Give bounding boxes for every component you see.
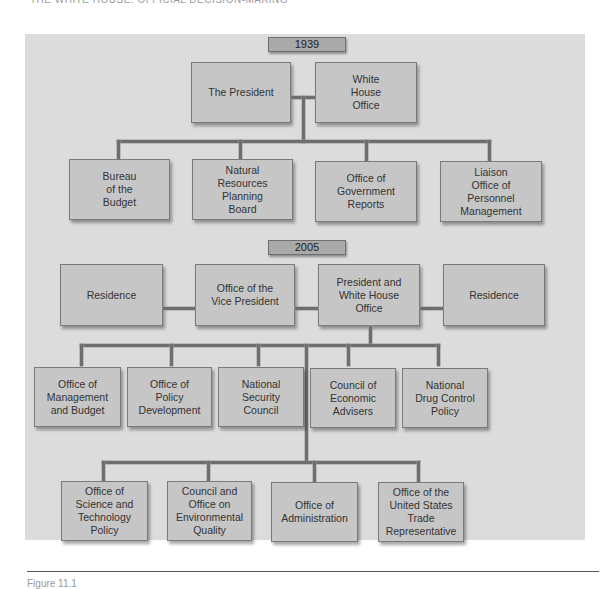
connector — [117, 140, 491, 143]
connector — [80, 344, 83, 366]
page-header: THE WHITE HOUSE: OFFICIAL DECISION-MAKIN… — [30, 0, 288, 5]
box-office-us-trade-representative: Office of the United States Trade Repres… — [378, 482, 464, 542]
connector — [117, 140, 120, 160]
figure-caption: Figure 11.1 — [27, 578, 77, 589]
connector — [313, 461, 316, 483]
box-office-of-policy-development: Office of Policy Development — [127, 367, 212, 427]
connector — [207, 461, 210, 482]
box-president-and-white-house-office: President and White House Office — [318, 264, 420, 326]
connector — [437, 344, 440, 366]
connector — [295, 307, 318, 310]
connector — [420, 307, 443, 310]
connector — [170, 344, 173, 366]
box-liaison-office-personnel-management: Liaison Office of Personnel Management — [440, 161, 542, 222]
box-the-president: The President — [191, 62, 291, 123]
year-label-2005: 2005 — [268, 240, 346, 255]
box-office-of-management-and-budget: Office of Management and Budget — [34, 367, 121, 427]
box-white-house-office-1939: White House Office — [315, 62, 417, 123]
box-residence-left: Residence — [60, 264, 163, 326]
connector — [80, 344, 440, 347]
box-national-security-council: National Security Council — [218, 367, 304, 427]
box-residence-right: Residence — [443, 264, 545, 326]
box-natural-resources-planning-board: Natural Resources Planning Board — [192, 159, 293, 220]
connector — [365, 140, 368, 162]
connector — [417, 461, 420, 483]
connector — [305, 344, 308, 462]
box-council-office-environmental-quality: Council and Office on Environmental Qual… — [167, 481, 252, 541]
connector — [347, 344, 350, 366]
box-office-of-government-reports: Office of Government Reports — [315, 161, 417, 222]
connector — [488, 140, 491, 162]
bottom-rule — [27, 571, 599, 572]
connector — [102, 461, 420, 464]
connector — [163, 307, 195, 310]
box-bureau-of-the-budget: Bureau of the Budget — [69, 159, 170, 220]
box-office-of-administration: Office of Administration — [271, 482, 358, 542]
connector — [102, 461, 105, 482]
connector — [257, 344, 260, 366]
box-office-of-the-vice-president: Office of the Vice President — [195, 264, 295, 326]
box-council-of-economic-advisers: Council of Economic Advisers — [310, 368, 396, 428]
connector — [239, 140, 242, 160]
year-label-1939: 1939 — [268, 37, 346, 52]
connector — [302, 96, 305, 143]
box-office-of-science-and-technology-policy: Office of Science and Technology Policy — [61, 481, 148, 541]
connector — [369, 326, 372, 344]
box-national-drug-control-policy: National Drug Control Policy — [402, 368, 488, 428]
